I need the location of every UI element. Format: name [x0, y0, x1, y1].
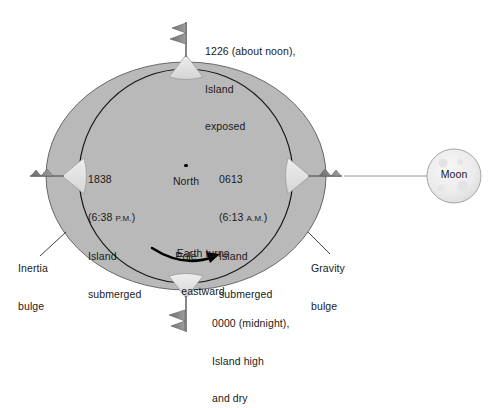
- label-evening-time-suffix: ): [132, 211, 136, 223]
- label-moon: Moon: [432, 168, 476, 181]
- label-gravity-bulge-line1: Gravity: [311, 262, 345, 275]
- label-evening-time24: 1838: [88, 173, 141, 186]
- north-pole-dot: [184, 164, 188, 168]
- label-evening-line4: submerged: [88, 288, 141, 301]
- moon-crater: [457, 159, 463, 165]
- label-rotation-line1: Earth turns: [155, 247, 251, 260]
- label-noon-line3: exposed: [205, 120, 296, 133]
- label-noon-line1: 1226 (about noon),: [205, 45, 296, 58]
- label-noon: 1226 (about noon), Island exposed: [205, 20, 296, 158]
- label-north-pole-line1: North: [159, 175, 213, 188]
- label-inertia-bulge-line1: Inertia: [18, 262, 48, 275]
- label-evening-line3: Island: [88, 250, 141, 263]
- moon-crater: [438, 185, 444, 191]
- label-evening: 1838 (6:38 P.M.) Island submerged: [88, 148, 141, 325]
- label-gravity-bulge-line2: bulge: [311, 300, 345, 313]
- label-morning-time24: 0613: [219, 173, 272, 186]
- label-morning-time-prefix: (6:13: [219, 211, 246, 223]
- label-midnight-line3: and dry: [212, 392, 289, 405]
- label-rotation-line2: eastward: [155, 285, 251, 298]
- flag-noon: [170, 23, 186, 44]
- label-morning-time-suffix: ): [264, 211, 268, 223]
- label-midnight-line2: Island high: [212, 355, 289, 368]
- moon-crater: [439, 159, 448, 168]
- label-rotation: Earth turns eastward: [155, 222, 251, 322]
- island-noon: [169, 22, 203, 80]
- label-evening-time-prefix: (6:38: [88, 211, 115, 223]
- label-evening-time12: (6:38 P.M.): [88, 211, 141, 226]
- label-gravity-bulge: Gravity bulge: [311, 237, 345, 337]
- label-noon-line2: Island: [205, 83, 296, 96]
- label-inertia-bulge: Inertia bulge: [18, 237, 48, 337]
- label-evening-meridiem: P.M.: [115, 214, 131, 223]
- moon-crater: [458, 181, 469, 192]
- label-inertia-bulge-line2: bulge: [18, 300, 48, 313]
